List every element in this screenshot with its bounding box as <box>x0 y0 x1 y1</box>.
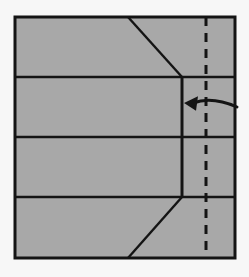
diagram-canvas: Origami fold step diagram <box>0 0 249 277</box>
origami-diagram <box>0 0 249 277</box>
